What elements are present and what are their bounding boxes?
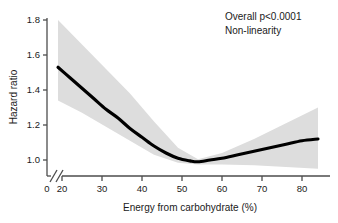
x-axis-break-icon	[50, 170, 63, 182]
x-tick-label: 40	[137, 183, 148, 194]
x-tick-label: 80	[297, 183, 308, 194]
non-linearity-annotation: Non-linearity	[225, 25, 281, 36]
x-tick-label: 70	[257, 183, 268, 194]
chart-canvas: 1.01.21.41.61.8 020304050607080 Hazard r…	[0, 0, 338, 223]
x-tick-label: 60	[217, 183, 228, 194]
x-axis-ticks	[62, 176, 302, 181]
y-axis-tick-labels: 1.01.21.41.61.8	[27, 14, 40, 165]
x-axis-tick-labels: 020304050607080	[44, 183, 307, 194]
x-tick-label: 20	[57, 183, 68, 194]
y-tick-label: 1.2	[27, 119, 40, 130]
y-tick-label: 1.8	[27, 14, 40, 25]
overall-p-value-annotation: Overall p<0.0001	[225, 11, 302, 22]
x-axis-title: Energy from carbohydrate (%)	[123, 202, 257, 213]
y-tick-label: 1.6	[27, 49, 40, 60]
x-tick-label: 0	[44, 183, 49, 194]
y-tick-label: 1.4	[27, 84, 40, 95]
x-tick-label: 30	[97, 183, 108, 194]
x-tick-label: 50	[177, 183, 188, 194]
y-axis-title: Hazard ratio	[8, 69, 19, 124]
y-tick-label: 1.0	[27, 154, 40, 165]
hazard-ratio-figure: 1.01.21.41.61.8 020304050607080 Hazard r…	[0, 0, 338, 223]
